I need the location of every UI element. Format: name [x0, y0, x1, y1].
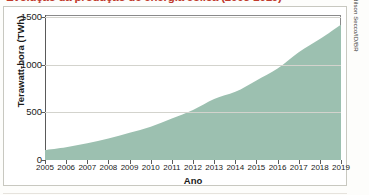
chart-figure: Evolução da produção de energia eólica (… [0, 0, 369, 195]
x-axis-label: Ano [45, 175, 341, 186]
y-tick-mark-500 [41, 112, 45, 113]
y-axis-tick-1000: 1000 [10, 60, 42, 69]
wind-energy-area-series [45, 17, 341, 160]
y-tick-mark-1500 [41, 17, 45, 18]
page-edge [3, 193, 347, 194]
gridline-1000 [45, 65, 341, 66]
plot-area [45, 17, 341, 160]
y-tick-mark-1000 [41, 65, 45, 66]
plot-top-border [45, 15, 341, 16]
gridline-500 [45, 112, 341, 113]
x-axis-tick-labels: 2005200620072008200920102011201220132014… [45, 163, 341, 175]
x-axis-tick-2019: 2019 [326, 163, 356, 173]
y-axis-tick-500: 500 [10, 107, 42, 116]
image-credit: Adilson Secco/ID/BR [353, 0, 359, 80]
y-axis-tick-1500: 1500 [10, 12, 42, 21]
gridline-1500 [45, 17, 341, 18]
chart-title: Evolução da produção de energia eólica (… [6, 0, 336, 4]
